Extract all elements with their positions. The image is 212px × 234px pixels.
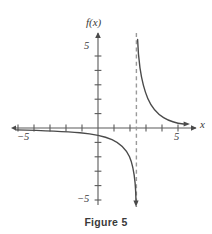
curve-right-branch-arrow — [184, 121, 190, 126]
x-axis-label: x — [200, 119, 205, 130]
x-axis-left-arrow — [11, 125, 16, 130]
x-tick-label-5: 5 — [174, 132, 179, 143]
curve-left-branch — [16, 130, 136, 201]
curve-left-branch-arrow — [133, 201, 138, 207]
figure-caption: Figure 5 — [0, 216, 212, 228]
y-axis-label: f(x) — [86, 17, 101, 28]
y-tick-label-5: 5 — [84, 41, 89, 52]
figure-5-graph: f(x) x 5 −5 −5 5 Figure 5 — [0, 0, 212, 234]
curve-right-branch — [138, 40, 184, 125]
coordinate-plane — [0, 0, 212, 234]
x-tick-label-minus-5: −5 — [17, 132, 29, 143]
y-tick-label-minus-5: −5 — [77, 194, 89, 205]
